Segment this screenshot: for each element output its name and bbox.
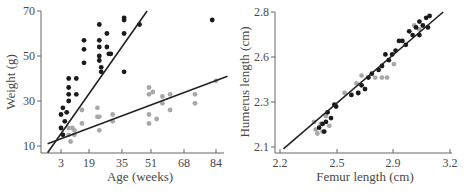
data-point-dark (97, 45, 102, 50)
data-point-light (385, 75, 390, 80)
data-point-light (97, 128, 102, 133)
data-point-dark (82, 47, 87, 52)
y-tick-label: 30 (23, 94, 35, 108)
y-tick-label: 2.1 (254, 140, 269, 154)
x-ticks: 31935516884 (58, 149, 222, 170)
data-point-dark (97, 38, 102, 43)
data-point-dark (59, 126, 64, 131)
x-ticks: 2.22.52.93.2 (273, 149, 458, 170)
x-tick-label: 2.5 (330, 156, 345, 170)
data-point-light (373, 75, 378, 80)
regression-line (48, 76, 228, 144)
data-point-dark (97, 22, 102, 27)
x-axis-label: Age (weeks) (107, 169, 173, 184)
data-point-dark (64, 110, 69, 115)
regression-lines (283, 12, 443, 149)
data-point-light (359, 73, 364, 78)
data-point-dark (122, 18, 127, 23)
weight-vs-age-chart: 10305070 31935516884 Age (weeks) Weight … (3, 4, 228, 184)
x-tick-label: 3 (58, 156, 64, 170)
x-tick-label: 2.2 (273, 156, 288, 170)
y-tick-label: 2.3 (254, 95, 269, 109)
data-point-dark (105, 45, 110, 50)
data-point-light (147, 121, 152, 126)
data-point-dark (66, 92, 71, 97)
data-point-light (168, 108, 173, 113)
data-point-dark (82, 60, 87, 65)
y-axis-label: Humerus length (cm) (237, 26, 252, 137)
x-tick-label: 84 (210, 156, 222, 170)
x-axis-label: Femur length (cm) (316, 169, 413, 184)
data-point-dark (210, 18, 215, 23)
data-point-dark (74, 76, 79, 81)
data-point-dark (59, 112, 64, 117)
data-point-dark (99, 65, 104, 70)
humerus-vs-femur-chart: 2.12.32.62.8 2.22.52.93.2 Femur length (… (237, 5, 458, 184)
data-point-light (193, 92, 198, 97)
data-point-light (168, 92, 173, 97)
x-tick-label: 2.9 (386, 156, 401, 170)
data-point-dark (62, 119, 67, 124)
data-point-dark (66, 85, 71, 90)
data-point-dark (363, 87, 368, 92)
data-point-light (110, 112, 115, 117)
y-axis-label: Weight (g) (3, 54, 18, 110)
data-point-light (193, 101, 198, 106)
data-point-light (97, 114, 102, 119)
figure: 10305070 31935516884 Age (weeks) Weight … (0, 0, 464, 194)
data-point-light (147, 85, 152, 90)
y-tick-label: 50 (23, 49, 35, 63)
data-point-dark (108, 51, 113, 56)
data-point-light (327, 123, 332, 128)
data-point-light (151, 90, 156, 95)
regression-line (283, 12, 443, 149)
data-point-dark (383, 52, 388, 57)
data-point-dark (427, 14, 432, 19)
data-point-light (80, 121, 85, 126)
y-ticks: 10305070 (23, 4, 41, 153)
data-point-dark (317, 125, 322, 130)
data-point-dark (356, 91, 361, 96)
data-point-light (95, 105, 100, 110)
data-point-dark (122, 69, 127, 74)
data-point-dark (417, 19, 422, 24)
data-point-light (80, 108, 85, 113)
data-point-dark (322, 129, 327, 134)
data-point-dark (61, 105, 66, 110)
data-point-light (154, 117, 159, 122)
data-point-dark (97, 58, 102, 63)
data-point-dark (66, 99, 71, 104)
data-points (59, 15, 219, 144)
data-point-light (72, 128, 77, 133)
data-points (312, 14, 432, 136)
y-tick-label: 2.8 (254, 5, 269, 19)
data-point-dark (74, 92, 79, 97)
y-tick-label: 70 (23, 4, 35, 18)
y-tick-label: 10 (23, 139, 35, 153)
data-point-light (147, 112, 152, 117)
data-point-dark (329, 116, 334, 121)
x-tick-label: 3.2 (443, 156, 458, 170)
x-tick-label: 68 (178, 156, 190, 170)
data-point-light (315, 131, 320, 136)
data-point-light (68, 139, 73, 144)
data-point-dark (414, 25, 419, 30)
data-point-dark (407, 29, 412, 34)
data-point-dark (105, 31, 110, 36)
x-tick-label: 35 (116, 156, 128, 170)
data-point-light (392, 62, 397, 67)
data-point-light (380, 75, 385, 80)
data-point-light (160, 94, 165, 99)
x-tick-label: 51 (145, 156, 157, 170)
data-point-dark (97, 54, 102, 59)
y-ticks: 2.12.32.62.8 (254, 5, 275, 154)
data-point-dark (66, 76, 71, 81)
y-tick-label: 2.6 (254, 50, 269, 64)
data-point-dark (82, 38, 87, 43)
data-point-dark (122, 31, 127, 36)
x-tick-label: 19 (83, 156, 95, 170)
data-point-dark (349, 93, 354, 98)
data-point-dark (400, 39, 405, 44)
data-point-dark (324, 120, 329, 125)
